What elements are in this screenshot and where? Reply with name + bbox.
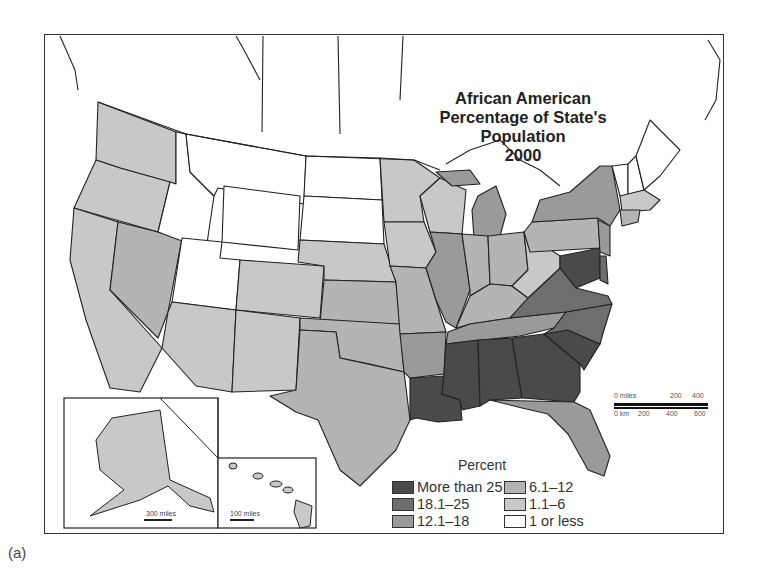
legend-swatch <box>504 498 526 511</box>
legend-swatch <box>504 515 526 528</box>
map-title: African American Percentage of State's P… <box>398 89 648 165</box>
title-line-1: African American <box>398 89 648 108</box>
state-utah <box>172 238 240 310</box>
legend-swatch <box>392 481 414 494</box>
hawaii-scale-label: 100 miles <box>230 510 260 517</box>
legend-item: 6.1–12 <box>504 478 573 496</box>
legend-label: More than 25 <box>417 479 502 495</box>
scale-bar <box>614 403 708 409</box>
legend-swatch <box>392 515 414 528</box>
scale-miles-tick: 200 <box>670 392 682 399</box>
title-line-2: Percentage of State's Population <box>398 108 648 146</box>
scale-km-tick: 200 <box>638 410 650 417</box>
state-delaware <box>600 256 608 284</box>
legend-item: 1.1–6 <box>504 495 565 513</box>
legend-item: 18.1–25 <box>392 495 469 513</box>
us-choropleth-map: 300 miles 100 miles <box>0 0 772 578</box>
state-connecticut <box>620 210 640 226</box>
scale-km-tick: 400 <box>666 410 678 417</box>
legend-label: 6.1–12 <box>529 479 573 495</box>
state-arizona <box>162 302 236 392</box>
legend-item: 12.1–18 <box>392 512 469 530</box>
state-michigan <box>472 186 506 238</box>
state-north-dakota <box>304 156 382 200</box>
legend-swatch <box>504 481 526 494</box>
state-south-dakota <box>300 196 384 244</box>
scale-miles-label: 0 miles <box>614 392 636 399</box>
scale-km-tick: 600 <box>694 410 706 417</box>
title-line-3: 2000 <box>398 146 648 165</box>
state-new-york <box>532 166 620 226</box>
scale-km-label: 0 km <box>614 410 629 417</box>
coastline-bc <box>60 36 78 90</box>
legend-label: 12.1–18 <box>417 513 469 529</box>
legend-swatch <box>392 498 414 511</box>
state-iowa <box>384 222 436 268</box>
legend-item: More than 25 <box>392 478 502 496</box>
state-new-mexico <box>232 310 300 392</box>
legend-item: 1 or less <box>504 512 584 530</box>
state-arkansas <box>400 332 446 378</box>
state-pennsylvania <box>524 218 600 252</box>
legend-label: 18.1–25 <box>417 496 469 512</box>
legend-label: 1 or less <box>529 513 584 529</box>
panel-label: (a) <box>8 544 26 561</box>
state-florida <box>490 400 610 476</box>
state-kansas <box>320 280 400 324</box>
state-wyoming <box>222 186 300 250</box>
alaska-scale-label: 300 miles <box>146 510 176 517</box>
legend-title: Percent <box>458 457 506 473</box>
legend-label: 1.1–6 <box>529 496 565 512</box>
scale-miles-tick: 400 <box>692 392 704 399</box>
state-colorado <box>236 260 324 318</box>
